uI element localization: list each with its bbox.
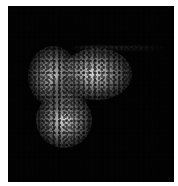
micrograph-field xyxy=(8,6,174,182)
connecting-haze xyxy=(48,76,88,116)
